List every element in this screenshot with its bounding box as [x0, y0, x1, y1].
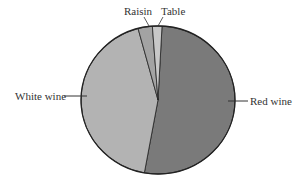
- white-wine-label: White wine: [15, 90, 66, 102]
- raisin-leader: [144, 17, 149, 26]
- red-wine-label: Red wine: [250, 95, 292, 107]
- raisin-label: Raisin: [124, 5, 152, 17]
- table-leader: [158, 17, 163, 26]
- pie-slices: [81, 26, 235, 174]
- table-label: Table: [161, 5, 185, 17]
